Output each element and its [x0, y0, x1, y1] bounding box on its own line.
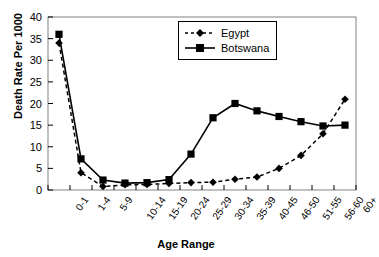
data-point-botswana-1-4	[77, 155, 84, 162]
data-point-botswana-25-29	[187, 151, 194, 158]
data-point-botswana-5-9	[99, 176, 106, 183]
data-point-botswana-40-45	[253, 107, 260, 114]
data-point-botswana-15-19	[143, 179, 150, 186]
data-point-botswana-0-1	[55, 31, 62, 38]
legend-label-botswana: Botswana	[221, 41, 269, 55]
data-point-egypt-25-29	[187, 179, 195, 187]
data-point-botswana-30-34	[209, 114, 216, 121]
data-point-botswana-46-50	[275, 113, 282, 120]
data-point-botswana-20-24	[165, 176, 172, 183]
data-point-egypt-1-4	[77, 169, 85, 177]
data-point-egypt-60+	[341, 95, 349, 103]
data-point-egypt-5-9	[99, 183, 107, 191]
data-point-botswana-10-14	[121, 179, 128, 186]
data-point-egypt-40-45	[253, 173, 261, 181]
botswana-series-key-icon	[184, 41, 216, 55]
legend-item-egypt: Egypt	[184, 25, 269, 40]
data-point-botswana-51-55	[297, 118, 304, 125]
data-point-botswana-60+	[341, 122, 348, 129]
legend-item-botswana: Botswana	[184, 40, 269, 55]
egypt-series-key-icon	[184, 26, 216, 40]
data-point-egypt-30-34	[209, 178, 217, 186]
data-point-botswana-35-39	[231, 100, 238, 107]
data-point-egypt-46-50	[275, 165, 283, 173]
legend: Egypt Botswana	[178, 21, 277, 60]
legend-label-egypt: Egypt	[221, 26, 249, 40]
data-point-botswana-56-60	[319, 122, 326, 129]
data-point-egypt-35-39	[231, 175, 239, 183]
